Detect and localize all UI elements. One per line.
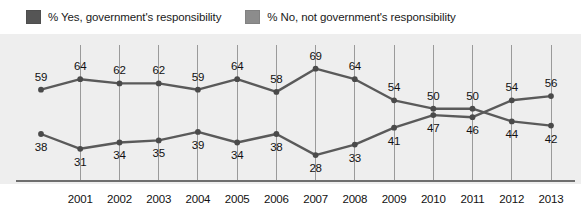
data-point-label: 38 xyxy=(270,141,282,153)
data-point-label: 69 xyxy=(309,50,321,62)
data-point-label: 35 xyxy=(152,147,164,159)
plot-area: 5938643162346235593964345838692864335441… xyxy=(0,34,581,184)
data-point-label: 44 xyxy=(506,128,518,140)
data-point-label: 42 xyxy=(545,133,557,145)
x-axis-tick-label: 2005 xyxy=(225,193,250,205)
x-axis-tick-label: 2002 xyxy=(107,193,132,205)
x-axis-zone: 2001200220032004200520062007200820092010… xyxy=(0,184,581,211)
x-axis-labels: 2001200220032004200520062007200820092010… xyxy=(0,184,581,211)
data-point-label: 39 xyxy=(192,139,204,151)
chart-legend: % Yes, government's responsibility % No,… xyxy=(0,0,581,34)
chart-container: % Yes, government's responsibility % No,… xyxy=(0,0,581,211)
legend-label-yes: % Yes, government's responsibility xyxy=(48,11,221,23)
x-axis-tick-label: 2012 xyxy=(499,193,524,205)
x-axis-tick-label: 2010 xyxy=(421,193,446,205)
data-point-label: 64 xyxy=(349,60,361,72)
data-point-label: 33 xyxy=(349,152,361,164)
x-axis-tick-label: 2009 xyxy=(382,193,407,205)
data-point-label: 62 xyxy=(152,64,164,76)
x-axis-tick-label: 2006 xyxy=(264,193,289,205)
data-point-label: 28 xyxy=(309,162,321,174)
data-point-label: 59 xyxy=(35,71,47,83)
data-point-label: 47 xyxy=(427,122,439,134)
x-axis-tick-label: 2008 xyxy=(342,193,367,205)
data-point-label: 54 xyxy=(506,81,518,93)
x-axis-tick-label: 2011 xyxy=(461,193,485,205)
legend-swatch-no xyxy=(245,10,260,24)
x-axis-tick-label: 2004 xyxy=(186,193,211,205)
plot-inner: 5938643162346235593964345838692864335441… xyxy=(0,34,581,184)
data-point-label: 41 xyxy=(388,135,400,147)
data-point-label: 62 xyxy=(113,64,125,76)
data-point-label: 38 xyxy=(35,141,47,153)
data-point-label: 64 xyxy=(231,60,243,72)
legend-swatch-yes xyxy=(26,10,41,24)
data-point-label: 50 xyxy=(427,90,439,102)
x-axis-tick-label: 2007 xyxy=(303,193,328,205)
data-point-label: 59 xyxy=(192,71,204,83)
data-point-label: 64 xyxy=(74,60,86,72)
x-axis-tick-label: 2003 xyxy=(146,193,171,205)
data-point-label: 34 xyxy=(113,149,125,161)
data-point-label: 46 xyxy=(466,124,478,136)
chart-svg xyxy=(0,34,581,184)
legend-label-no: % No, not government's responsibility xyxy=(267,11,455,23)
legend-item-yes: % Yes, government's responsibility xyxy=(26,10,221,24)
data-point-label: 31 xyxy=(74,156,86,168)
x-axis-tick-label: 2001 xyxy=(68,193,93,205)
data-point-label: 54 xyxy=(388,81,400,93)
data-point-label: 50 xyxy=(466,90,478,102)
x-axis-tick-label: 2013 xyxy=(539,193,564,205)
data-point-label: 34 xyxy=(231,149,243,161)
data-point-label: 56 xyxy=(545,77,557,89)
legend-item-no: % No, not government's responsibility xyxy=(245,10,455,24)
data-point-label: 58 xyxy=(270,73,282,85)
